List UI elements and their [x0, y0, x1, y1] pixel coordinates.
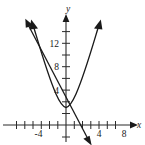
- y-tick-label-8: 8: [54, 62, 59, 72]
- y-axis-label: y: [65, 4, 71, 14]
- coordinate-plane: -4 4 8 4 8 12 x y: [0, 0, 145, 145]
- parabola-right-arrow-icon: [94, 20, 102, 30]
- x-axis: [3, 121, 138, 129]
- y-axis-arrow-icon: [63, 14, 70, 22]
- descending-line-bottom-arrow-icon: [83, 136, 91, 145]
- x-tick-label-minus4: -4: [35, 129, 43, 139]
- x-tick-label-8: 8: [122, 129, 127, 139]
- y-tick-label-12: 12: [50, 39, 60, 49]
- graph-figure: -4 4 8 4 8 12 x y: [0, 0, 145, 145]
- x-tick-label-4: 4: [97, 129, 102, 139]
- x-axis-label: x: [136, 120, 142, 130]
- y-axis: [62, 14, 70, 142]
- y-tick-label-4: 4: [54, 86, 59, 96]
